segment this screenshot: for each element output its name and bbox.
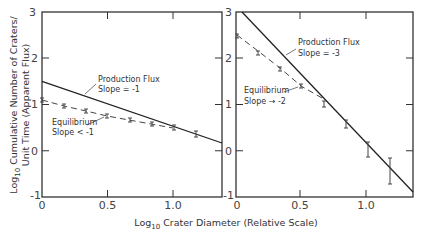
left-xtick-05: 0.5 [99, 199, 117, 212]
right-ytick-0: 0 [225, 145, 232, 158]
left-panel: 3 2 1 0 -1 0 0.5 1.0 Production Flux Slo… [29, 6, 222, 212]
right-prod-slope: Slope = -3 [298, 49, 340, 58]
right-eq-slope: Slope → -2 [244, 97, 286, 106]
right-ytick-3: 3 [225, 6, 232, 19]
left-xtick-10: 1.0 [164, 199, 182, 212]
left-ytick-1: 1 [31, 98, 38, 111]
left-eq-slope: Slope < -1 [52, 128, 94, 137]
right-ytick-2: 2 [225, 52, 232, 65]
right-prod-label: Production Flux [298, 38, 360, 47]
left-ytick-3: 3 [29, 6, 36, 19]
right-xtick-05: 0.5 [291, 199, 309, 212]
y-axis-label: Log10 Cumulative Number of Craters/ Unit… [8, 15, 31, 193]
xlabel-log: Log [134, 217, 151, 228]
crater-flux-figure: 3 2 1 0 -1 0 0.5 1.0 Production Flux Slo… [0, 0, 421, 237]
left-prod-label: Production Flux [98, 75, 160, 84]
x-axis-label: Log10 Crater Diameter (Relative Scale) [134, 217, 317, 231]
right-eq-label: Equilibrium [244, 86, 290, 95]
left-prod-leader [85, 84, 96, 94]
xlabel-rest: Crater Diameter (Relative Scale) [160, 217, 318, 228]
ylabel-sub: 10 [14, 168, 22, 177]
left-prod-slope: Slope = -1 [98, 85, 140, 94]
right-xtick-10: 1.0 [357, 199, 375, 212]
ylabel-log: Log [8, 177, 19, 194]
xlabel-sub: 10 [151, 223, 160, 231]
right-ytick-m1: -1 [223, 189, 234, 202]
right-prod-leader [286, 49, 296, 55]
right-ytick-1: 1 [225, 98, 232, 111]
left-plot-frame [42, 12, 222, 197]
ylabel-rest: Cumulative Number of Craters/ [8, 15, 19, 167]
left-ytick-2: 2 [31, 52, 38, 65]
left-xtick-0: 0 [39, 199, 46, 212]
left-eq-label: Equilibrium [52, 118, 98, 127]
right-xtick-0: 0 [234, 199, 241, 212]
ylabel-line2: Unit Time (Apparent Flux) [20, 44, 31, 166]
right-panel: 3 2 1 0 -1 0 0.5 1.0 Production Flux Slo… [223, 6, 413, 212]
left-ytick-0: 0 [31, 145, 38, 158]
